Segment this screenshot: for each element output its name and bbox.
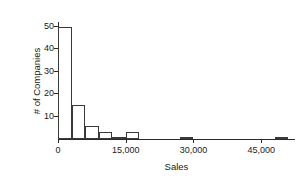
- y-tick-label: 30: [44, 66, 54, 75]
- histogram-bar: [85, 126, 99, 140]
- y-tick-label: 20: [44, 89, 54, 98]
- y-axis-label: # of Companies: [32, 47, 42, 114]
- x-axis-label: Sales: [58, 162, 295, 172]
- x-tick-group: 015,00030,00045,000: [58, 139, 295, 140]
- histogram-bar: [58, 27, 72, 140]
- x-tick-label: 30,000: [180, 146, 208, 155]
- histogram-figure: # of Companies 1020304050 015,00030,0004…: [0, 0, 301, 182]
- x-tick-mark: [261, 139, 262, 143]
- x-tick-mark: [193, 139, 194, 143]
- y-tick-label: 10: [44, 111, 54, 120]
- x-tick: 15,000: [126, 139, 127, 140]
- x-tick: 0: [58, 139, 59, 140]
- y-tick-label: 40: [44, 44, 54, 53]
- x-tick: 30,000: [193, 139, 194, 140]
- plot-area: 1020304050: [58, 22, 295, 139]
- x-tick-label: 0: [55, 146, 60, 155]
- histogram-bar: [72, 105, 86, 139]
- x-tick-label: 45,000: [247, 146, 275, 155]
- histogram-bar: [126, 132, 140, 139]
- x-tick: 45,000: [261, 139, 262, 140]
- y-tick-label: 50: [44, 21, 54, 30]
- x-tick-mark: [58, 139, 59, 143]
- x-tick-mark: [126, 139, 127, 143]
- y-axis-label-holder: # of Companies: [0, 22, 16, 139]
- x-tick-label: 15,000: [112, 146, 140, 155]
- histogram-bar: [99, 132, 113, 139]
